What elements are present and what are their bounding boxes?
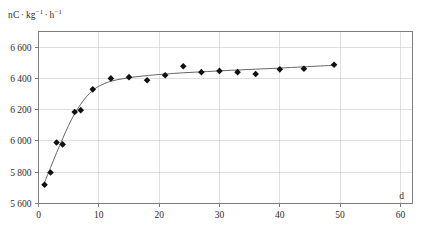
y-axis-tick-label: 6 400 xyxy=(10,74,32,84)
axis-tick-labels-group: 5 6005 8006 0006 2006 4006 6000102030405… xyxy=(10,43,405,220)
data-point-marker xyxy=(144,77,151,84)
y-axis-tick-label: 6 000 xyxy=(10,136,32,146)
data-point-marker xyxy=(59,141,66,148)
x-axis-tick-label: 60 xyxy=(396,210,406,220)
data-point-marker xyxy=(252,71,259,78)
chart-plot: 5 6005 8006 0006 2006 4006 6000102030405… xyxy=(0,0,424,237)
data-point-marker xyxy=(53,139,60,146)
y-axis-tick-label: 6 600 xyxy=(10,43,32,53)
data-markers-group xyxy=(41,62,337,189)
x-axis-name-label: d xyxy=(399,191,404,201)
data-point-marker xyxy=(162,72,169,79)
gridlines-group xyxy=(39,32,413,204)
fitted-curve-group xyxy=(45,65,335,182)
data-point-marker xyxy=(47,169,54,176)
y-axis-tick-label: 5 800 xyxy=(10,168,32,178)
x-axis-tick-label: 0 xyxy=(36,210,41,220)
data-point-marker xyxy=(276,66,283,73)
data-point-marker xyxy=(331,62,338,69)
chart-figure: nC·kg−1·h−1 5 6005 8006 0006 2006 4006 6… xyxy=(0,0,424,237)
plot-frame xyxy=(39,32,413,204)
data-point-marker xyxy=(126,74,133,81)
x-axis-tick-label: 30 xyxy=(215,210,225,220)
fitted-curve xyxy=(45,65,335,182)
data-point-marker xyxy=(89,86,96,93)
x-axis-tick-label: 20 xyxy=(154,210,164,220)
x-axis-tick-label: 40 xyxy=(275,210,285,220)
x-axis-tick-label: 50 xyxy=(335,210,345,220)
axis-name-group: d xyxy=(399,191,404,201)
y-axis-tick-label: 6 200 xyxy=(10,105,32,115)
data-point-marker xyxy=(41,181,48,188)
data-point-marker xyxy=(180,63,187,70)
plot-border xyxy=(39,32,413,204)
data-point-marker xyxy=(216,68,223,75)
x-axis-tick-label: 10 xyxy=(94,210,104,220)
y-axis-tick-label: 5 600 xyxy=(10,199,32,209)
data-point-marker xyxy=(198,69,205,76)
